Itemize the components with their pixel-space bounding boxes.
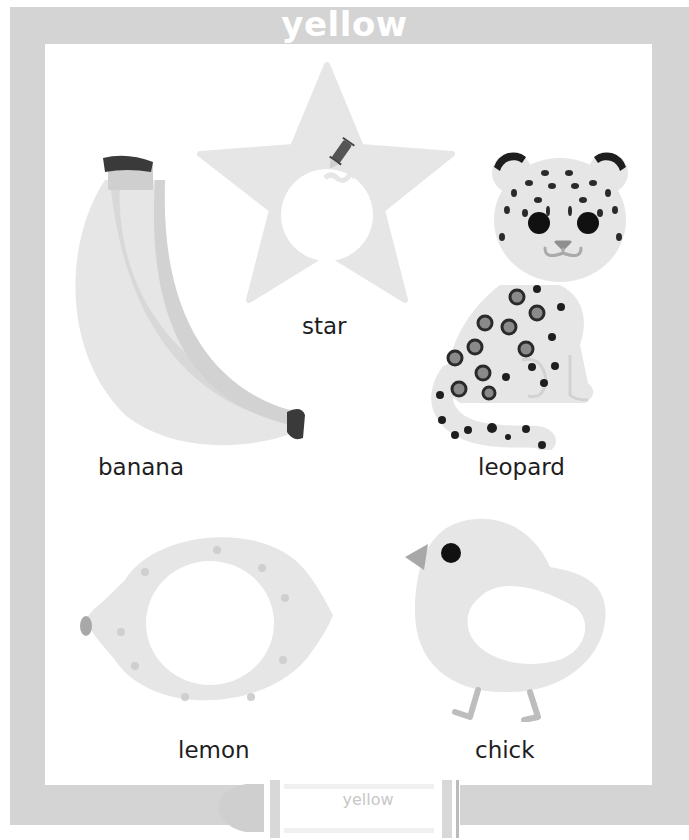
- banana-icon: [65, 150, 315, 450]
- page-title: yellow: [0, 2, 689, 46]
- item-label-banana: banana: [98, 453, 184, 481]
- chick-icon: [400, 512, 615, 722]
- lemon-icon: [75, 520, 345, 730]
- item-label-chick: chick: [475, 736, 535, 764]
- crayon-label: yellow: [318, 790, 418, 809]
- leopard-icon: [430, 145, 630, 450]
- item-label-leopard: leopard: [478, 453, 565, 481]
- item-label-lemon: lemon: [178, 736, 250, 764]
